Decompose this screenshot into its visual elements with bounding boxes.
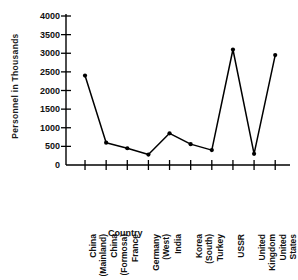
x-tick-label: USSR	[237, 234, 247, 280]
x-tick-label: United States	[279, 234, 298, 280]
x-tick-label: Turkey	[216, 234, 226, 280]
x-tick-label: France	[131, 234, 141, 280]
data-point-markers	[83, 47, 277, 156]
data-point	[273, 53, 277, 57]
data-point	[189, 142, 193, 146]
x-tick-label: Korea (South)	[195, 234, 214, 280]
x-tick-label: India	[174, 234, 184, 280]
data-point	[231, 47, 235, 51]
data-point	[252, 152, 256, 156]
data-point	[104, 141, 108, 145]
x-tick-label: United Kingdom	[258, 234, 277, 280]
x-axis-title: Country	[108, 228, 143, 238]
data-point	[125, 146, 129, 150]
data-point	[83, 74, 87, 78]
x-tick-label: China (Formosa)	[110, 234, 129, 280]
x-axis-tick-labels: China (Mainland)China (Formosa)FranceGer…	[0, 168, 298, 244]
data-series-line	[85, 50, 275, 155]
x-tick-label: China (Mainland)	[89, 234, 108, 280]
data-point	[167, 131, 171, 135]
data-point	[146, 152, 150, 156]
x-tick-label: Germany (West)	[152, 234, 171, 280]
data-point	[210, 148, 214, 152]
